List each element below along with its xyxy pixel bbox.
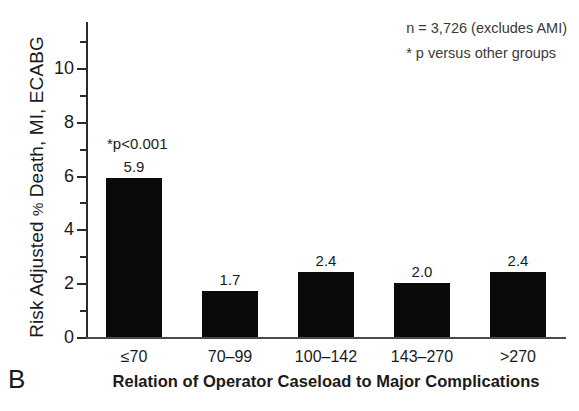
y-tick-label: 2 [64,274,74,292]
y-tick-mark [80,310,86,312]
x-tick-label: 100–142 [295,349,357,365]
bar [202,291,258,337]
bar-value-label: 5.9 [124,159,145,174]
bar [490,272,546,337]
panel-label: B [8,366,25,392]
bar-value-label: 1.7 [220,272,241,287]
y-tick-mark [80,149,86,151]
bar-value-label: 2.0 [412,264,433,279]
bar [106,178,162,337]
y-tick-label: 10 [54,59,74,77]
y-tick-mark [80,95,86,97]
y-tick-mark [77,68,86,70]
y-axis-title-suffix: Death, MI, ECABG [26,36,47,202]
y-axis-line [86,22,88,338]
y-tick-label: 0 [64,328,74,346]
x-tick-label: ≤70 [121,349,148,365]
figure-panel-b: Risk Adjusted % Death, MI, ECABG n = 3,7… [0,0,579,411]
x-tick-label: 70–99 [208,349,253,365]
bar [394,283,450,337]
bar [298,272,354,337]
y-tick-label: 6 [64,167,74,185]
y-tick-mark [77,176,86,178]
y-axis-title-percent: % [29,203,46,216]
x-tick-label: 143–270 [391,349,453,365]
x-axis-title: Relation of Operator Caseload to Major C… [86,372,566,391]
y-tick-mark [77,122,86,124]
y-tick-label: 4 [64,220,74,238]
bar-value-label: 2.4 [508,253,529,268]
y-tick-label: 8 [64,113,74,131]
y-axis-title-prefix: Risk Adjusted [26,216,47,338]
y-tick-mark [80,41,86,43]
y-tick-mark [77,229,86,231]
x-axis-line [86,337,566,339]
y-tick-mark [77,283,86,285]
y-tick-mark [77,337,86,339]
x-tick-label: >270 [500,349,536,365]
significance-annotation: *p<0.001 [107,136,167,151]
y-axis-title: Risk Adjusted % Death, MI, ECABG [26,22,48,352]
plot-area: 0246810 5.91.72.42.02.4 ≤7070–99100–1421… [86,22,566,338]
y-tick-mark [80,202,86,204]
bar-value-label: 2.4 [316,253,337,268]
y-tick-mark [80,256,86,258]
